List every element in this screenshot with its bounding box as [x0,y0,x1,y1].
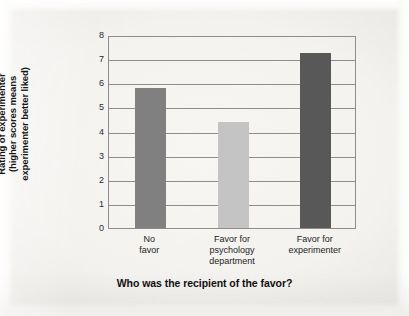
y-axis-title-line-1: Rating of experimenter [0,67,7,181]
y-tick-label-8: 8 [88,31,104,40]
y-tick-label-7: 7 [88,55,104,64]
x-category-label-1-line-1: No [108,234,191,245]
y-tick-label-2: 2 [88,176,104,185]
x-axis-title: Who was the recipient of the favor? [0,277,409,290]
bar-1 [135,88,166,228]
x-category-label-2-line-1: Favor for [191,234,274,245]
bar-3 [300,53,331,228]
y-tick-label-6: 6 [88,79,104,88]
bar-2 [218,122,249,228]
x-category-label-2: Favor forpsychologydepartment [191,232,274,274]
y-axis-tick-labels: 012345678 [86,36,104,229]
x-category-label-3-line-2: experimenter [273,245,356,256]
x-category-label-1: Nofavor [108,232,191,274]
x-category-label-2-line-3: department [191,256,274,267]
y-axis-title-line-2: (higher scores means [7,67,19,181]
y-tick-label-1: 1 [88,200,104,209]
x-category-label-3: Favor forexperimenter [273,232,356,274]
y-axis-title-line-3: experimenter better liked) [19,67,31,181]
x-category-label-1-line-2: favor [108,245,191,256]
plot-area [108,36,356,229]
x-category-label-2-line-2: psychology [191,245,274,256]
x-axis-category-labels: NofavorFavor forpsychologydepartmentFavo… [108,232,356,274]
y-axis-title: Rating of experimenter (higher scores me… [0,18,35,230]
y-tick-label-4: 4 [88,128,104,137]
bar-chart-figure: Rating of experimenter (higher scores me… [0,0,409,316]
y-tick-label-3: 3 [88,152,104,161]
x-category-label-3-line-1: Favor for [273,234,356,245]
y-tick-label-0: 0 [88,224,104,233]
y-tick-label-5: 5 [88,103,104,112]
